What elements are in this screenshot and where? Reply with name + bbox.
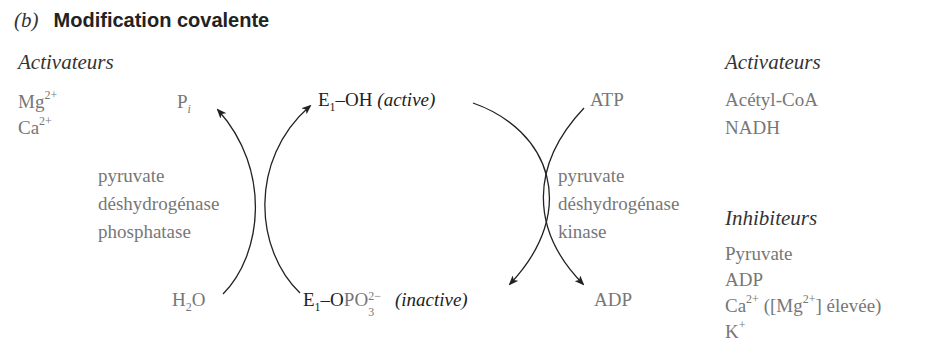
reaction-arrows <box>0 0 941 356</box>
arrow-h2o-to-pi <box>218 110 255 294</box>
arrow-active-to-inactive <box>473 103 549 284</box>
arrow-inactive-to-active <box>265 106 310 293</box>
